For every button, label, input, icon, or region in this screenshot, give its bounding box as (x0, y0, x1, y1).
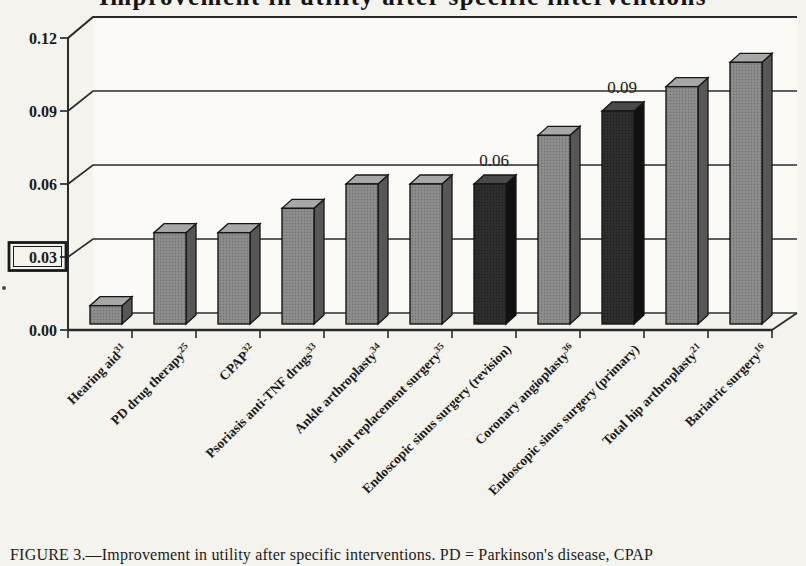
bar-side-face (634, 102, 644, 324)
y-tick-label-0.00: 0.00 (29, 322, 57, 339)
bar-front-face (602, 111, 634, 324)
bar-endoscopic-sinus-surgery-revision (474, 175, 516, 324)
bar-pd-drug-therapy (154, 224, 196, 324)
bar-front-face (154, 233, 186, 324)
bar-front-face (666, 87, 698, 324)
bar-front-face (538, 135, 570, 324)
figure-caption: FIGURE 3.—Improvement in utility after s… (10, 546, 806, 564)
bar-side-face (442, 175, 452, 324)
bar-psoriasis-anti-tnf-drugs (282, 199, 324, 324)
bar-side-face (506, 175, 516, 324)
x-label-pd-drug-therapy: PD drug therapy25 (107, 341, 194, 428)
y-tick-label-0.06: 0.06 (29, 176, 57, 193)
y-tick-label-0.03: 0.03 (29, 249, 57, 266)
y-tick-label-0.12: 0.12 (29, 30, 57, 47)
y-tick-label-0.09: 0.09 (29, 103, 57, 120)
x-label-psoriasis-anti-tnf-drugs: Psoriasis anti-TNF drugs33 (202, 341, 322, 461)
bar-value-label: 0.09 (607, 78, 637, 97)
bar-side-face (314, 199, 324, 324)
bar-joint-replacement-surgery (410, 175, 452, 324)
bar-total-hip-arthroplasty (666, 78, 708, 324)
x-label-total-hip-arthroplasty: Total hip arthroplasty21 (598, 341, 706, 449)
bar-side-face (762, 53, 772, 324)
bar-ankle-arthroplasty (346, 175, 388, 324)
bar-value-label: 0.06 (479, 151, 509, 170)
bar-front-face (730, 62, 762, 324)
bar-cpap (218, 224, 260, 324)
scan-artifact-dot (2, 286, 6, 290)
scanned-figure-page: Improvement in utility after specific in… (0, 0, 806, 566)
bar-side-face (378, 175, 388, 324)
bar-bariatric-surgery (730, 53, 772, 324)
bar-side-face (186, 224, 196, 324)
x-label-cpap: CPAP32 (215, 341, 258, 384)
bar-endoscopic-sinus-surgery-primary (602, 102, 644, 324)
bar-front-face (218, 233, 250, 324)
bar-side-face (570, 126, 580, 324)
bar-front-face (346, 184, 378, 324)
bar-front-face (410, 184, 442, 324)
bar-side-face (698, 78, 708, 324)
bar-front-face (282, 208, 314, 324)
utility-improvement-bar-chart: 0.000.030.060.090.12Hearing aid31PD drug… (0, 0, 806, 546)
bar-front-face (474, 184, 506, 324)
bar-side-face (250, 224, 260, 324)
bar-coronary-angioplasty (538, 126, 580, 324)
x-label-hearing-aid: Hearing aid31 (64, 341, 131, 408)
x-label-joint-replacement-surgery: Joint replacement surgery35 (325, 341, 450, 466)
bar-front-face (90, 306, 122, 324)
bar-hearing-aid (90, 297, 132, 324)
